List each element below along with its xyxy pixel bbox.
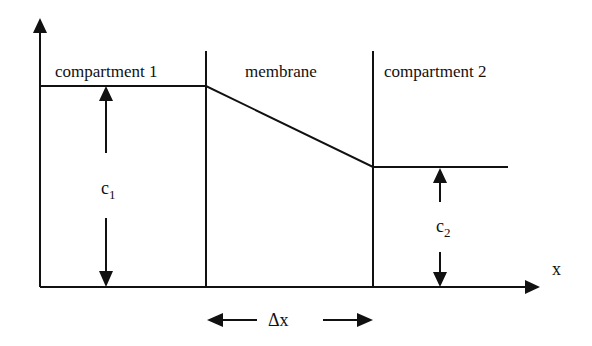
c1-down-arrowhead-icon	[99, 271, 113, 287]
delta-x-label: Δx	[268, 310, 289, 330]
c2-up-arrowhead-icon	[433, 168, 447, 183]
c1-up-arrowhead-icon	[99, 86, 113, 101]
delta-x-left-arrowhead-icon	[207, 313, 223, 327]
x-axis-label: x	[552, 259, 561, 279]
x-axis-arrowhead-icon	[525, 280, 540, 294]
delta-x-right-arrowhead-icon	[357, 313, 373, 327]
compartment2-label: compartment 2	[384, 62, 486, 81]
y-axis-arrowhead-icon	[33, 18, 47, 33]
c2-label: c2	[436, 216, 451, 240]
c2-down-arrowhead-icon	[433, 272, 447, 287]
compartment1-label: compartment 1	[55, 62, 157, 81]
c1-label: c1	[101, 178, 116, 202]
membrane-label: membrane	[245, 62, 317, 81]
membrane-diffusion-diagram: compartment 1 membrane compartment 2 c1 …	[0, 0, 592, 346]
